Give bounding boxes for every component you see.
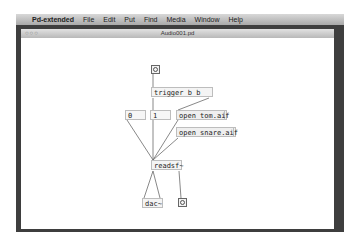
window-title: Audio001.pd: [21, 30, 334, 36]
number-box-zero[interactable]: 0: [125, 110, 146, 120]
window-titlebar[interactable]: ○○○ Audio001.pd: [21, 29, 334, 38]
number-box-one[interactable]: 1: [150, 110, 171, 120]
menu-help[interactable]: Help: [228, 16, 242, 23]
bang-input-button[interactable]: [151, 65, 160, 74]
menu-app-name[interactable]: Pd-extended: [32, 16, 74, 23]
menu-put[interactable]: Put: [124, 16, 135, 23]
trigger-object[interactable]: trigger b b: [151, 87, 213, 97]
bang-output-button[interactable]: [178, 198, 187, 207]
message-open-tom[interactable]: open tom.aif: [176, 110, 227, 120]
message-open-snare[interactable]: open snare.aif: [176, 127, 236, 137]
menu-edit[interactable]: Edit: [103, 16, 115, 23]
menu-window[interactable]: Window: [195, 16, 220, 23]
menu-media[interactable]: Media: [167, 16, 186, 23]
menu-find[interactable]: Find: [144, 16, 158, 23]
readsf-object[interactable]: readsf~: [151, 160, 182, 170]
menu-file[interactable]: File: [83, 16, 94, 23]
dac-object[interactable]: dac~: [142, 198, 163, 208]
